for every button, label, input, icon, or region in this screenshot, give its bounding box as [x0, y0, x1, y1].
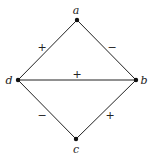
vertex-d-dot — [16, 78, 20, 82]
vertex-a-dot — [75, 18, 79, 22]
vertex-c-dot — [74, 137, 78, 141]
edge-d-c — [18, 80, 76, 139]
edge-sign-a-b: − — [107, 41, 116, 54]
vertex-label-c: c — [73, 143, 79, 156]
edge-sign-c-b: + — [105, 109, 114, 122]
vertex-label-d: d — [5, 74, 12, 87]
signed-graph-diagram: +−+−+abcd — [0, 0, 150, 159]
edge-sign-d-c: − — [37, 109, 46, 122]
edge-sign-d-b: + — [72, 68, 81, 81]
edge-a-d — [18, 20, 77, 80]
vertex-b-dot — [134, 78, 138, 82]
vertex-label-b: b — [140, 74, 147, 87]
vertex-label-a: a — [73, 4, 80, 17]
edge-sign-a-d: + — [37, 41, 46, 54]
